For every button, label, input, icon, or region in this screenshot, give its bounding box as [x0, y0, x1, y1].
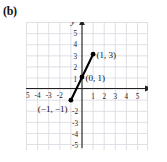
- svg-text:-4: -4: [35, 92, 41, 100]
- data-point-1-3: [91, 52, 96, 57]
- svg-text:3: 3: [73, 53, 77, 61]
- svg-text:3: 3: [114, 93, 118, 101]
- x-axis-label: x: [147, 90, 148, 100]
- coordinate-plane: y x -5 -4 -3 -2 1 2 3 4 5 5 4 3 2 1 -: [26, 22, 148, 150]
- svg-text:-4: -4: [72, 131, 78, 139]
- svg-text:4: 4: [73, 41, 77, 49]
- svg-text:5: 5: [136, 93, 140, 101]
- x-tick-labels: -5 -4 -3 -2 1 2 3 4 5: [26, 92, 140, 101]
- data-point-neg1-neg1: [69, 98, 74, 103]
- panel-label: (b): [3, 5, 17, 17]
- axes: [26, 22, 148, 148]
- y-axis-label: y: [70, 22, 75, 26]
- svg-text:2: 2: [73, 64, 77, 72]
- svg-text:-5: -5: [72, 142, 78, 150]
- data-point-0-1: [80, 75, 85, 80]
- svg-text:2: 2: [102, 93, 106, 101]
- svg-text:-3: -3: [46, 92, 52, 100]
- chart-svg: y x -5 -4 -3 -2 1 2 3 4 5 5 4 3 2 1 -: [26, 22, 148, 150]
- svg-text:-2: -2: [57, 92, 63, 100]
- svg-text:5: 5: [73, 30, 77, 38]
- svg-text:-3: -3: [72, 120, 78, 128]
- label-point-1-3: (1, 3): [97, 50, 117, 60]
- svg-text:1: 1: [91, 93, 95, 101]
- figure-panel-b: (b): [0, 0, 167, 162]
- svg-text:-2: -2: [72, 108, 78, 116]
- label-point-neg1-neg1: (−1, −1): [38, 104, 68, 114]
- label-point-0-1: (0, 1): [86, 73, 106, 83]
- svg-text:-5: -5: [26, 92, 30, 100]
- grid-lines: [26, 22, 148, 150]
- svg-text:4: 4: [125, 93, 129, 101]
- svg-text:1: 1: [73, 76, 77, 84]
